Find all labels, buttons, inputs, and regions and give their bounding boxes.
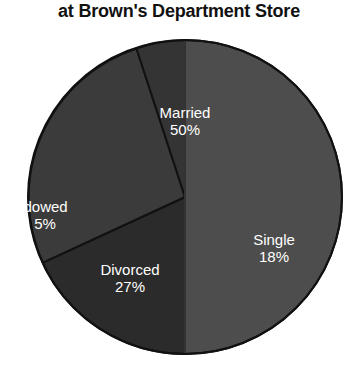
pie-slice-married[interactable] [185, 40, 342, 354]
pie-chart-graphic [0, 0, 358, 378]
pie-chart-figure: at Brown's Department Store Married 50% … [0, 0, 358, 378]
